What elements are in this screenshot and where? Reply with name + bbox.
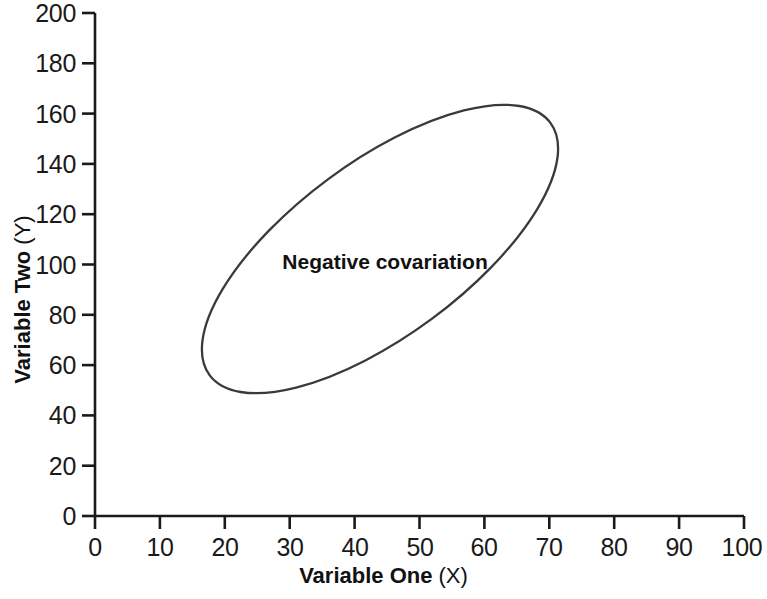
x-axis-title-paren: (X) [439, 563, 468, 588]
chart-annotation: Negative covariation [282, 250, 487, 274]
x-tick-label: 90 [665, 533, 692, 562]
x-tick-label: 100 [722, 533, 763, 562]
x-tick-label: 70 [535, 533, 562, 562]
x-axis-title-bold: Variable One [299, 563, 432, 588]
x-tick-label: 10 [146, 533, 173, 562]
x-tick-label: 60 [470, 533, 497, 562]
y-axis-title-paren: (Y) [10, 215, 35, 244]
negative-covariation-ellipse [158, 53, 602, 445]
x-axis-ticks [95, 516, 744, 529]
y-axis-title-bold: Variable Two [10, 251, 35, 384]
x-tick-label: 80 [600, 533, 627, 562]
x-tick-label: 30 [276, 533, 303, 562]
chart-figure: 200 180 160 140 120 100 80 60 40 20 0 0 … [0, 0, 767, 599]
x-tick-label: 40 [341, 533, 368, 562]
y-axis-title: Variable Two (Y) [8, 0, 38, 599]
x-tick-label: 20 [211, 533, 238, 562]
x-tick-label: 0 [88, 533, 102, 562]
x-tick-label: 50 [406, 533, 433, 562]
plot-canvas [0, 0, 767, 599]
x-axis-title: Variable One (X) [0, 563, 767, 589]
y-axis-ticks [82, 13, 95, 516]
